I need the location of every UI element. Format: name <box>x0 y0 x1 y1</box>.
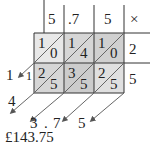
cell-tens: 2 <box>98 65 106 81</box>
cell-units: 5 <box>80 76 88 92</box>
carry-digit: 1 <box>26 69 32 83</box>
result-digit: 1 <box>6 67 14 83</box>
cell-tens: 1 <box>38 35 46 51</box>
cell-tens: 2 <box>38 65 46 81</box>
cell-units: 0 <box>110 45 118 61</box>
final-answer: £143.75 <box>5 129 54 144</box>
row-multiplier: 2 <box>129 41 137 57</box>
cell-tens: 3 <box>68 65 76 81</box>
cell-units: 4 <box>80 45 88 61</box>
result-digit: 5 <box>78 115 86 131</box>
result-digit: 7 <box>53 115 61 131</box>
result-digit: 4 <box>8 93 16 109</box>
lattice-multiplication-diagram: 5 .7 5 × 1 0 1 4 1 0 2 2 5 3 5 2 5 5 1 1… <box>0 0 156 144</box>
cell-tens: 1 <box>68 35 76 51</box>
cell-tens: 1 <box>98 35 106 51</box>
header-digit-3: 5 <box>104 11 112 27</box>
header-digit-2: .7 <box>68 11 80 27</box>
multiply-symbol: × <box>130 11 138 27</box>
cell-units: 5 <box>110 76 118 92</box>
cell-units: 5 <box>50 76 58 92</box>
row-multiplier: 5 <box>129 71 137 87</box>
header-digit-1: 5 <box>48 11 56 27</box>
cell-units: 0 <box>50 45 58 61</box>
